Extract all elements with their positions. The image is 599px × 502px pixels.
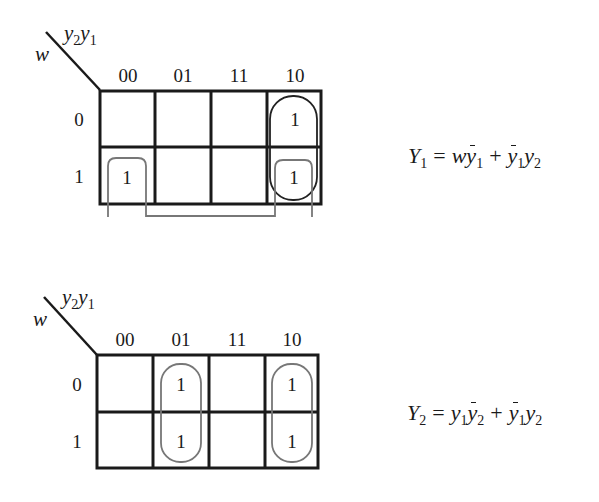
col-var-label: y2y1 bbox=[60, 285, 95, 312]
cell-value: 1 bbox=[176, 374, 186, 395]
eq-lhs-sub: 1 bbox=[420, 156, 427, 171]
col-header: 00 bbox=[116, 329, 135, 350]
eq-equals: = bbox=[432, 400, 444, 425]
row-header: 1 bbox=[74, 166, 84, 187]
row-var-label: w bbox=[35, 42, 49, 66]
cell-value: 1 bbox=[287, 431, 297, 452]
cell-value: 1 bbox=[176, 431, 186, 452]
eq-plus: + bbox=[490, 400, 502, 425]
eq-lhs: Y bbox=[407, 400, 419, 425]
eq-var-bar: y bbox=[509, 400, 519, 426]
eq-lhs-sub: 2 bbox=[419, 413, 426, 428]
eq-var: w bbox=[452, 143, 467, 168]
row-header: 1 bbox=[72, 431, 82, 452]
eq-var-bar: y bbox=[466, 143, 476, 169]
equation-y1: Y1=wy1+y1y2 bbox=[408, 143, 541, 172]
col-header: 00 bbox=[119, 65, 138, 86]
kmap-y1: y2y1 w 00 01 11 10 0 1 1 1 1 bbox=[35, 21, 321, 217]
col-header: 10 bbox=[283, 329, 302, 350]
kmap-y2: y2y1 w 00 01 11 10 0 1 1 1 1 1 bbox=[33, 285, 318, 468]
eq-var: y bbox=[525, 400, 535, 425]
kmap-grid bbox=[100, 91, 321, 204]
row-header: 0 bbox=[74, 109, 84, 130]
col-header: 10 bbox=[286, 65, 305, 86]
eq-equals: = bbox=[433, 143, 445, 168]
eq-lhs: Y bbox=[408, 143, 420, 168]
equation-y2: Y2=y1y2+y1y2 bbox=[407, 400, 542, 429]
eq-var: y bbox=[524, 143, 534, 168]
col-header: 11 bbox=[228, 329, 246, 350]
cell-value: 1 bbox=[287, 374, 297, 395]
col-header: 11 bbox=[230, 65, 248, 86]
eq-var: y bbox=[451, 400, 461, 425]
row-header: 0 bbox=[72, 374, 82, 395]
col-header: 01 bbox=[172, 329, 191, 350]
eq-sub: 2 bbox=[477, 413, 484, 428]
eq-sub: 1 bbox=[476, 156, 483, 171]
eq-sub: 2 bbox=[535, 413, 542, 428]
eq-plus: + bbox=[489, 143, 501, 168]
eq-sub: 2 bbox=[534, 156, 541, 171]
kmap-grid bbox=[97, 355, 318, 468]
col-header: 01 bbox=[174, 65, 193, 86]
cell-value: 1 bbox=[289, 167, 299, 188]
cell-value: 1 bbox=[122, 167, 132, 188]
eq-var-bar: y bbox=[508, 143, 518, 169]
row-var-label: w bbox=[33, 307, 47, 331]
eq-var-bar: y bbox=[467, 400, 477, 426]
cell-value: 1 bbox=[290, 109, 300, 130]
col-var-label: y2y1 bbox=[62, 21, 97, 48]
